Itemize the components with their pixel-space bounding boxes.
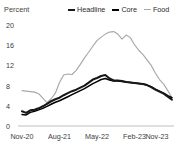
series-line-core [22, 79, 172, 115]
inflation-line-chart: Percent Headline Core Food 048121620 Nov… [0, 0, 179, 147]
plot-area [0, 0, 179, 147]
series-line-food [22, 32, 172, 103]
